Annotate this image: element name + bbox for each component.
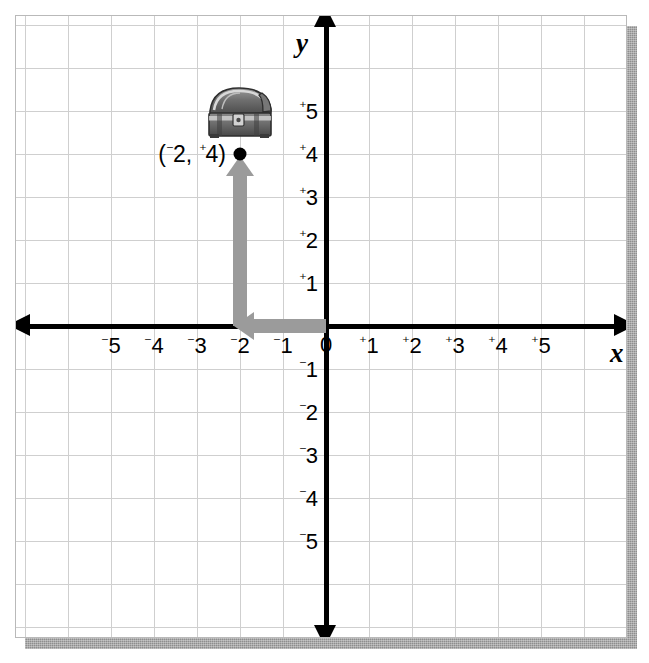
tick-value: 5 — [538, 333, 550, 358]
y-axis-down-arrowhead — [314, 625, 336, 638]
tick-value: 4 — [151, 333, 163, 358]
tick-value: 3 — [306, 443, 318, 468]
y-tick-label: ⁺1 — [284, 271, 318, 294]
horizontal-move-arrow-shaft — [254, 319, 326, 333]
tick-value: 3 — [194, 333, 206, 358]
y-tick-label: ⁻5 — [284, 529, 318, 552]
coordinate-plane-worksheet: x y ⁻5⁻4⁻3⁻2⁻10⁺1⁺2⁺3⁺4⁺5⁺5⁺4⁺3⁺2⁺1⁻1⁻2⁻… — [15, 15, 627, 638]
gridline-horizontal — [16, 498, 626, 499]
x-axis-right-arrowhead — [614, 314, 627, 336]
gridline-horizontal — [16, 197, 626, 198]
y-axis-label: y — [296, 30, 308, 57]
coordinate-y-value: 4 — [206, 141, 219, 167]
x-tick-label: ⁺4 — [488, 334, 507, 357]
paren-close: ) — [218, 141, 226, 167]
tick-value: 4 — [306, 142, 318, 167]
tick-value: 5 — [108, 333, 120, 358]
x-tick-label: 0 — [320, 334, 332, 356]
tick-value: 4 — [306, 486, 318, 511]
tick-value: 1 — [366, 333, 378, 358]
paren-open: ( — [158, 141, 166, 167]
y-axis-up-arrowhead — [314, 15, 336, 27]
gridline-horizontal — [16, 541, 626, 542]
tick-value: 2 — [306, 228, 318, 253]
gridline-horizontal — [16, 240, 626, 241]
y-tick-label: ⁺4 — [284, 142, 318, 165]
tick-value: 1 — [280, 333, 292, 358]
x-tick-label: ⁺3 — [445, 334, 464, 357]
y-tick-label: ⁺2 — [284, 228, 318, 251]
tick-value: 0 — [320, 332, 332, 357]
gridline-horizontal — [16, 369, 626, 370]
tick-value: 3 — [306, 185, 318, 210]
tick-value: 4 — [495, 333, 507, 358]
vertical-move-arrow-shaft — [233, 174, 247, 326]
y-tick-label: ⁻4 — [284, 486, 318, 509]
coordinate-x-value: 2 — [173, 141, 186, 167]
x-tick-label: ⁺2 — [402, 334, 421, 357]
x-tick-label: ⁻3 — [187, 334, 206, 357]
plotted-point — [234, 148, 247, 161]
gridline-horizontal — [16, 154, 626, 155]
gridline-horizontal — [16, 455, 626, 456]
x-axis-left-arrowhead — [15, 314, 30, 336]
tick-value: 1 — [306, 271, 318, 296]
gridline-horizontal — [16, 584, 626, 585]
point-coordinate-label: (⁻2, ⁺4) — [158, 142, 226, 165]
y-tick-label: ⁺3 — [284, 185, 318, 208]
y-tick-label: ⁻2 — [284, 400, 318, 423]
tick-value: 2 — [306, 400, 318, 425]
y-tick-label: ⁻3 — [284, 443, 318, 466]
treasure-chest-icon — [202, 85, 278, 145]
gridline-horizontal — [16, 412, 626, 413]
tick-value: 3 — [452, 333, 464, 358]
gridline-horizontal — [16, 68, 626, 69]
tick-value: 5 — [306, 529, 318, 554]
tick-value: 1 — [306, 357, 318, 382]
tick-value: 5 — [306, 99, 318, 124]
x-axis-label: x — [610, 340, 624, 367]
tick-value: 2 — [409, 333, 421, 358]
coordinate-comma: , — [186, 141, 199, 167]
gridline-horizontal — [16, 111, 626, 112]
x-tick-label: ⁺1 — [359, 334, 378, 357]
x-tick-label: ⁻4 — [144, 334, 163, 357]
x-tick-label: ⁻1 — [273, 334, 292, 357]
y-tick-label: ⁻1 — [284, 357, 318, 380]
gridline-horizontal — [16, 283, 626, 284]
x-tick-label: ⁺5 — [531, 334, 550, 357]
x-tick-label: ⁻5 — [101, 334, 120, 357]
y-tick-label: ⁺5 — [284, 99, 318, 122]
